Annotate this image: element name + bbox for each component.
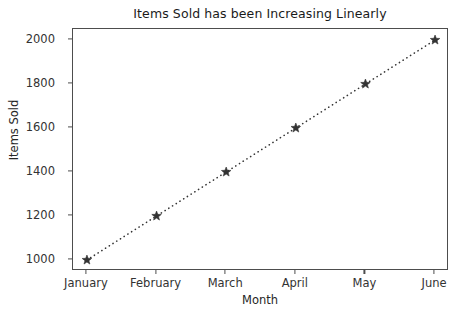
x-tick-label: June <box>422 276 447 290</box>
x-tick-label: May <box>353 276 377 290</box>
x-tick-label: March <box>208 276 243 290</box>
series-plot <box>73 29 449 271</box>
x-tick-label: April <box>282 276 308 290</box>
x-tick-label: January <box>64 276 108 290</box>
y-tick-label: 2000 <box>26 32 55 46</box>
data-point-marker <box>152 211 162 220</box>
y-tick-label: 1000 <box>26 252 55 266</box>
x-tick-mark <box>433 270 434 274</box>
y-tick-label: 1200 <box>26 208 55 222</box>
data-point-marker <box>430 35 440 44</box>
x-axis-label: Month <box>72 293 448 307</box>
data-point-marker <box>291 123 301 132</box>
data-point-marker <box>221 167 231 176</box>
x-tick-mark <box>364 270 365 274</box>
y-tick-label: 1800 <box>26 76 55 90</box>
x-tick-mark <box>225 270 226 274</box>
x-tick-mark <box>155 270 156 274</box>
data-point-marker <box>82 255 92 264</box>
x-tick-label: February <box>130 276 181 290</box>
x-axis-tick-labels: JanuaryFebruaryMarchAprilMayJune <box>0 276 464 292</box>
chart-figure: Items Sold has been Increasing Linearly … <box>0 0 464 313</box>
plot-area <box>72 28 448 270</box>
x-axis-tick-marks <box>72 270 448 275</box>
series-line <box>87 40 435 260</box>
x-tick-mark <box>294 270 295 274</box>
y-tick-label: 1400 <box>26 164 55 178</box>
x-tick-mark <box>85 270 86 274</box>
chart-title: Items Sold has been Increasing Linearly <box>72 6 448 21</box>
y-tick-label: 1600 <box>26 120 55 134</box>
y-axis-tick-labels: 100012001400160018002000 <box>0 28 64 270</box>
